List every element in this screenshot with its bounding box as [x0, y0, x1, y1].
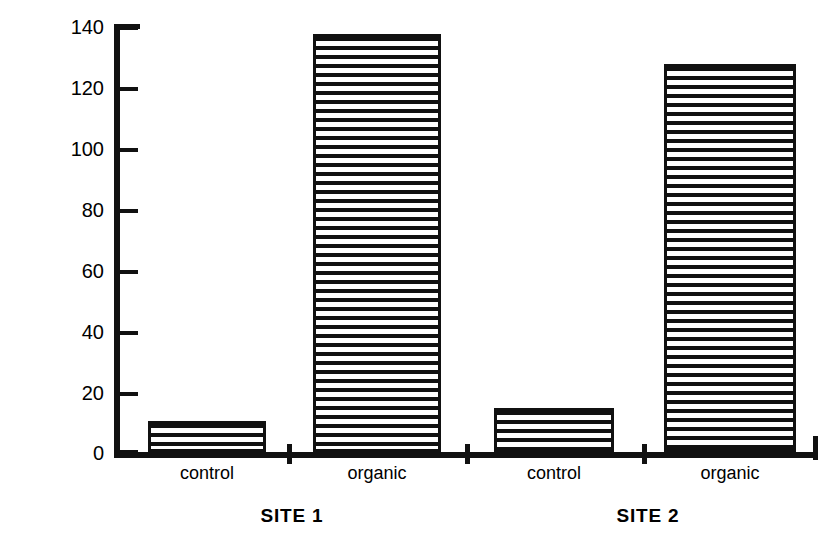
bar-chart: ROOT LENGTH 140 120 100 80 60 40: [0, 0, 830, 550]
x-label-site2-organic: organic: [670, 462, 790, 484]
x-label-site1-control: control: [147, 462, 267, 484]
y-tick-label-20-wrap: 20: [28, 383, 104, 403]
bar-site1-control: [148, 421, 266, 452]
y-tick-120: [120, 87, 138, 91]
y-tick-label-40-wrap: 40: [28, 322, 104, 342]
x-axis-right-cap: [813, 436, 818, 460]
y-tick-60: [120, 270, 138, 274]
y-tick-label-140-wrap: 140: [28, 17, 104, 37]
group-label-site-2: SITE 2: [578, 505, 718, 527]
y-tick-label-80: 80: [32, 200, 104, 220]
y-tick-label-0: 0: [32, 443, 104, 463]
x-label-site1-organic: organic: [317, 462, 437, 484]
x-tick-1: [287, 444, 292, 464]
y-tick-label-120: 120: [32, 78, 104, 98]
bar-site1-organic: [313, 34, 441, 452]
y-tick-40: [120, 331, 138, 335]
bar-site2-control: [494, 408, 614, 452]
y-tick-label-60: 60: [32, 261, 104, 281]
y-tick-0: [120, 450, 138, 454]
y-tick-label-140: 140: [32, 17, 104, 37]
y-tick-label-20: 20: [32, 383, 104, 403]
y-tick-label-0-wrap: 0: [28, 443, 104, 463]
bar-site2-organic: [664, 64, 796, 452]
x-tick-3: [642, 444, 647, 464]
y-tick-label-100: 100: [32, 139, 104, 159]
y-tick-label-80-wrap: 80: [28, 200, 104, 220]
y-tick-140: [120, 26, 138, 30]
x-label-site2-control: control: [494, 462, 614, 484]
y-tick-label-40: 40: [32, 322, 104, 342]
y-tick-20: [120, 392, 138, 396]
plot-area: 140 120 100 80 60 40 20 0: [0, 0, 830, 550]
y-tick-100: [120, 148, 138, 152]
x-tick-2: [465, 444, 470, 464]
y-tick-label-60-wrap: 60: [28, 261, 104, 281]
y-tick-label-100-wrap: 100: [28, 139, 104, 159]
y-tick-label-120-wrap: 120: [28, 78, 104, 98]
group-label-site-1: SITE 1: [222, 505, 362, 527]
y-tick-80: [120, 209, 138, 213]
